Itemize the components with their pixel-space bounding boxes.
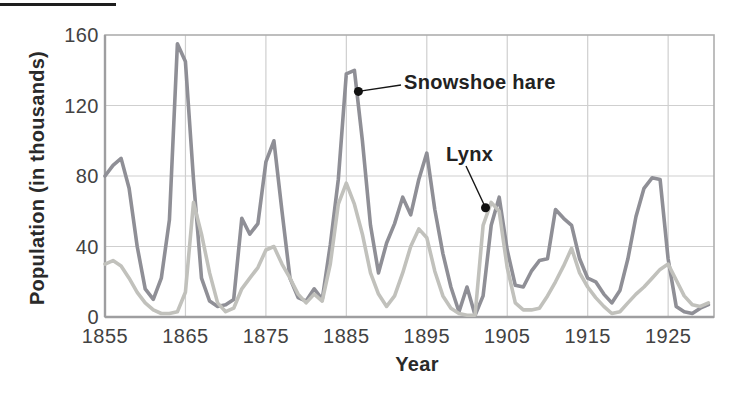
x-tick-label: 1885 [323,325,370,347]
x-tick-label: 1895 [404,325,451,347]
x-tick-label: 1875 [243,325,290,347]
y-tick-label: 80 [35,165,99,187]
snowshoe-hare-series-label: Snowshoe hare [404,71,556,93]
hare-lynx-population-chart: Population (in thousands) Year Snowshoe … [0,0,753,393]
y-tick-label: 160 [35,24,99,46]
annotation-leader-line [358,85,401,91]
x-tick-label: 1915 [564,325,611,347]
x-tick-label: 1865 [162,325,209,347]
x-tick-label: 1925 [645,325,692,347]
annotation-leader-line [466,166,486,208]
lynx-series-label: Lynx [446,143,493,165]
x-axis-title: Year [395,353,438,375]
y-tick-label: 40 [35,236,99,258]
annotation-dot [481,203,490,212]
x-tick-label: 1905 [484,325,531,347]
x-tick-label: 1855 [82,325,129,347]
annotation-dot [354,87,363,96]
y-tick-label: 120 [35,95,99,117]
